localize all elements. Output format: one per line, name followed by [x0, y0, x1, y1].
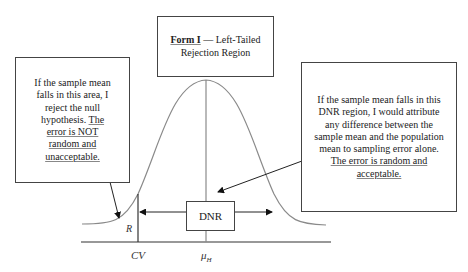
critical-value-label: CV: [131, 249, 145, 261]
dnr-box: DNR: [186, 201, 235, 231]
right-callout-underlined-1: The error is random and: [331, 155, 428, 166]
dnr-label: DNR: [199, 210, 222, 222]
left-callout-arrow: [110, 182, 119, 218]
title-dash: —: [201, 34, 216, 45]
rejection-region-label: R: [126, 223, 132, 234]
mu-h-label: μH: [201, 249, 212, 264]
mu-subscript: H: [207, 256, 212, 264]
left-callout-box: If the sample mean falls in this area, I…: [15, 57, 130, 183]
title-box: Form I — Left-Tailed Rejection Region: [157, 16, 274, 77]
right-callout-text: If the sample mean falls in this DNR reg…: [314, 94, 443, 154]
right-callout-box: If the sample mean falls in this DNR reg…: [301, 62, 457, 212]
right-callout-arrow: [218, 161, 302, 192]
form-label: Form I: [170, 34, 200, 45]
right-callout-underlined-2: acceptable.: [357, 168, 402, 179]
